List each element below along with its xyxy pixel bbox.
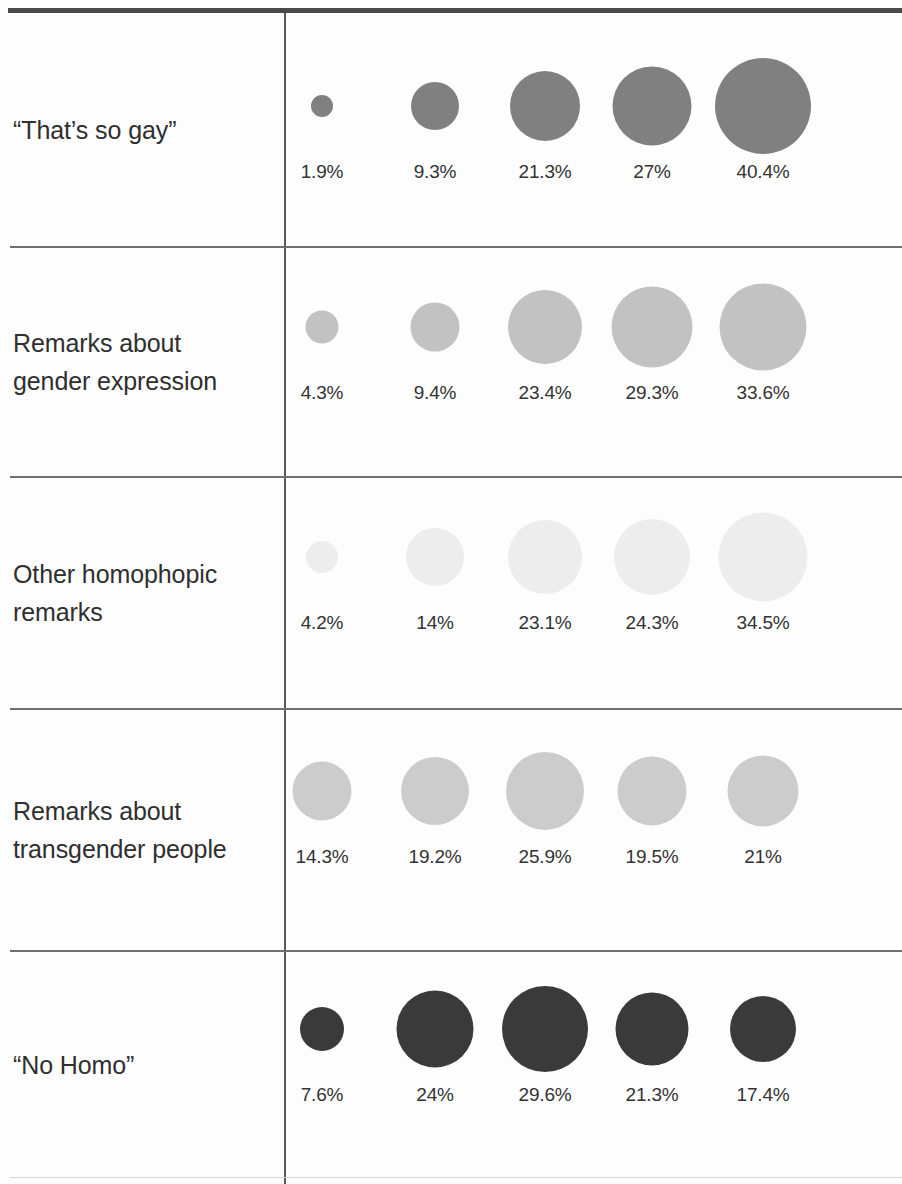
bubble-circle[interactable] <box>510 71 580 141</box>
bubble-field: 4.2%14%23.1%24.3%34.5% <box>286 477 902 709</box>
bubble-circle[interactable] <box>612 287 693 368</box>
bubble-value-label: 9.3% <box>414 161 457 183</box>
row-label: “No Homo” <box>13 1046 275 1084</box>
bubble-circle[interactable] <box>728 756 799 827</box>
bubble-circle[interactable] <box>293 762 352 821</box>
bubble-value-label: 9.4% <box>414 382 457 404</box>
bubble-circle[interactable] <box>406 528 464 586</box>
bubble-value-label: 23.4% <box>519 382 572 404</box>
bubble-circle[interactable] <box>618 757 687 826</box>
chart-row: Remarks about gender expression4.3%9.4%2… <box>0 247 902 477</box>
bubble-circle[interactable] <box>306 311 339 344</box>
row-label: “That’s so gay” <box>13 111 275 149</box>
bubble-value-label: 1.9% <box>301 161 344 183</box>
bubble-value-label: 4.3% <box>301 382 344 404</box>
bubble-circle[interactable] <box>614 519 690 595</box>
bubble-field: 14.3%19.2%25.9%19.5%21% <box>286 709 902 951</box>
bubble-value-label: 7.6% <box>301 1084 344 1106</box>
bubble-value-label: 24% <box>416 1084 453 1106</box>
row-label: Remarks about transgender people <box>13 792 275 868</box>
bubble-value-label: 21.3% <box>626 1084 679 1106</box>
bubble-value-label: 27% <box>633 161 670 183</box>
bubble-circle[interactable] <box>311 95 333 117</box>
bubble-circle[interactable] <box>508 520 582 594</box>
bubble-field: 7.6%24%29.6%21.3%17.4% <box>286 951 902 1178</box>
bubble-circle[interactable] <box>730 996 796 1062</box>
bubble-circle[interactable] <box>613 67 692 146</box>
chart-row: “No Homo”7.6%24%29.6%21.3%17.4% <box>0 951 902 1178</box>
bubble-value-label: 14% <box>416 612 453 634</box>
row-label: Remarks about gender expression <box>13 324 275 400</box>
bubble-value-label: 19.5% <box>626 846 679 868</box>
row-label: Other homophopic remarks <box>13 555 275 631</box>
bubble-matrix-chart: “That’s so gay”1.9%9.3%21.3%27%40.4%Rema… <box>0 0 902 1184</box>
bubble-field: 1.9%9.3%21.3%27%40.4% <box>286 13 902 247</box>
bubble-field: 4.3%9.4%23.4%29.3%33.6% <box>286 247 902 477</box>
bubble-value-label: 4.2% <box>301 612 344 634</box>
bubble-circle[interactable] <box>411 82 459 130</box>
bubble-circle[interactable] <box>306 541 338 573</box>
bubble-value-label: 29.6% <box>519 1084 572 1106</box>
bubble-value-label: 29.3% <box>626 382 679 404</box>
bubble-value-label: 21.3% <box>519 161 572 183</box>
bubble-circle[interactable] <box>616 993 689 1066</box>
chart-row: Remarks about transgender people14.3%19.… <box>0 709 902 951</box>
bubble-value-label: 33.6% <box>737 382 790 404</box>
chart-row: Other homophopic remarks4.2%14%23.1%24.3… <box>0 477 902 709</box>
bubble-value-label: 17.4% <box>737 1084 790 1106</box>
bubble-circle[interactable] <box>397 991 474 1068</box>
bubble-circle[interactable] <box>715 58 811 154</box>
bubble-circle[interactable] <box>508 290 582 364</box>
bubble-value-label: 40.4% <box>737 161 790 183</box>
bubble-circle[interactable] <box>401 757 469 825</box>
bubble-value-label: 23.1% <box>519 612 572 634</box>
bubble-circle[interactable] <box>502 986 588 1072</box>
bubble-circle[interactable] <box>411 303 460 352</box>
bubble-circle[interactable] <box>506 752 584 830</box>
bubble-value-label: 34.5% <box>737 612 790 634</box>
bubble-value-label: 25.9% <box>519 846 572 868</box>
bubble-value-label: 19.2% <box>409 846 462 868</box>
bubble-value-label: 24.3% <box>626 612 679 634</box>
bubble-value-label: 21% <box>744 846 781 868</box>
bubble-circle[interactable] <box>719 513 808 602</box>
chart-row: “That’s so gay”1.9%9.3%21.3%27%40.4% <box>0 13 902 247</box>
bubble-circle[interactable] <box>720 284 807 371</box>
bubble-value-label: 14.3% <box>296 846 349 868</box>
bubble-circle[interactable] <box>300 1007 344 1051</box>
